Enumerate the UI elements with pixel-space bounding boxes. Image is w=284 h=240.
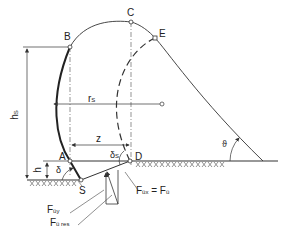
hs-label: hS	[10, 110, 20, 120]
point-label-e: E	[159, 29, 166, 39]
arc-bce	[70, 21, 155, 47]
delta-label: δ	[56, 166, 61, 175]
point-label-s: S	[79, 186, 86, 196]
center-lines	[70, 22, 131, 175]
slope-curve	[155, 38, 263, 161]
delta-angle-arc	[62, 168, 73, 180]
h-label: h	[33, 167, 43, 173]
point-label-a: A	[59, 152, 66, 162]
dashed-curve	[116, 38, 155, 161]
rs-label: rS	[88, 94, 95, 104]
delta-s-angle-arc	[119, 151, 124, 165]
point-label-c: C	[127, 8, 134, 18]
theta-angle-arc	[230, 138, 239, 161]
rs-dimension	[54, 102, 164, 106]
point-label-d: D	[135, 152, 142, 162]
ground-hatch-right	[136, 162, 224, 167]
force-label-fuy: Füy	[47, 205, 59, 215]
point-label-b: B	[64, 32, 71, 42]
ground-line	[27, 161, 278, 180]
z-label: z	[96, 134, 101, 144]
diagram-canvas	[0, 0, 284, 240]
theta-label: ϑ	[222, 140, 227, 149]
force-label-fures: Fü res	[50, 218, 69, 228]
base-line-sd	[81, 161, 130, 180]
ground-hatch-left	[30, 181, 82, 186]
delta-s-label: δS	[110, 151, 119, 160]
force-label-fux: Füx = Fü	[136, 186, 169, 196]
